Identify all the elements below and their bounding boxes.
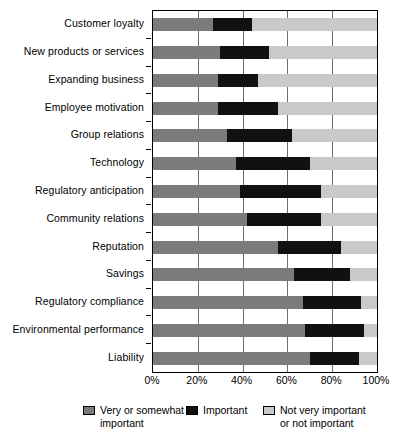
segment-important (310, 352, 359, 365)
y-axis-category-labels: Customer loyaltyNew products or services… (0, 8, 144, 378)
segment-not-very-important (269, 46, 377, 59)
segment-not-very-important (258, 74, 377, 87)
y-axis-tick (146, 93, 151, 94)
y-axis-tick (146, 315, 151, 316)
x-axis-tick-label: 80% (321, 374, 342, 386)
segment-very-or-somewhat-important (153, 185, 240, 198)
y-axis-label: Community relations (0, 213, 144, 224)
x-axis-tick-label: 20% (186, 374, 207, 386)
legend-item: Very or somewhat important (83, 404, 184, 429)
legend-item: Important (186, 404, 247, 417)
segment-important (236, 157, 310, 170)
segment-not-very-important (364, 324, 377, 337)
segment-not-very-important (350, 268, 377, 281)
bar-row (153, 324, 377, 337)
y-axis-label: Regulatory compliance (0, 296, 144, 307)
segment-not-very-important (278, 102, 377, 115)
bar-row (153, 46, 377, 59)
segment-important (218, 102, 278, 115)
segment-not-very-important (292, 129, 377, 142)
segment-not-very-important (361, 296, 377, 309)
bar-row (153, 268, 377, 281)
y-axis-tick (146, 149, 151, 150)
segment-important (240, 185, 321, 198)
plot-area (152, 10, 378, 373)
x-axis-tick-label: 40% (231, 374, 252, 386)
bar-row (153, 296, 377, 309)
y-axis-tick (146, 232, 151, 233)
very-swatch (83, 406, 95, 415)
y-axis-label: Technology (0, 157, 144, 168)
y-axis-tick (146, 260, 151, 261)
segment-important (227, 129, 292, 142)
bar-row (153, 185, 377, 198)
segment-very-or-somewhat-important (153, 296, 303, 309)
y-axis-label: Savings (0, 268, 144, 279)
segment-very-or-somewhat-important (153, 241, 278, 254)
segment-important (303, 296, 361, 309)
y-axis-tick (146, 343, 151, 344)
x-axis-tick-label: 60% (276, 374, 297, 386)
y-axis-tick (146, 121, 151, 122)
bar-row (153, 213, 377, 226)
bar-row (153, 129, 377, 142)
segment-very-or-somewhat-important (153, 157, 236, 170)
segment-very-or-somewhat-important (153, 102, 218, 115)
bar-row (153, 352, 377, 365)
segment-important (247, 213, 321, 226)
segment-important (305, 324, 363, 337)
legend-label: Very or somewhat important (100, 404, 184, 429)
y-axis-label: Customer loyalty (0, 18, 144, 29)
segment-important (218, 74, 258, 87)
segment-not-very-important (341, 241, 377, 254)
segment-not-very-important (321, 213, 377, 226)
segment-important (213, 18, 251, 31)
stacked-bar-chart: Customer loyaltyNew products or services… (0, 0, 396, 444)
segment-important (278, 241, 341, 254)
segment-very-or-somewhat-important (153, 74, 218, 87)
legend-label: Important (203, 404, 247, 417)
y-axis-label: Environmental performance (0, 324, 144, 335)
y-axis-label: Expanding business (0, 74, 144, 85)
y-axis-tick (146, 66, 151, 67)
y-axis-label: Reputation (0, 241, 144, 252)
y-axis-tick (146, 38, 151, 39)
segment-very-or-somewhat-important (153, 18, 213, 31)
segment-very-or-somewhat-important (153, 213, 247, 226)
bar-row (153, 102, 377, 115)
bar-row (153, 74, 377, 87)
segment-not-very-important (252, 18, 377, 31)
legend-label: Not very important or not important (280, 404, 366, 429)
y-axis-label: Employee motivation (0, 102, 144, 113)
x-axis-tick-label: 0% (144, 374, 159, 386)
segment-not-very-important (359, 352, 377, 365)
legend-item: Not very important or not important (263, 404, 366, 429)
x-axis-tick-labels: 0%20%40%60%80%100% (0, 374, 396, 390)
y-axis-tick (146, 288, 151, 289)
segment-very-or-somewhat-important (153, 129, 227, 142)
segment-very-or-somewhat-important (153, 352, 310, 365)
y-axis-label: Group relations (0, 129, 144, 140)
segment-very-or-somewhat-important (153, 46, 220, 59)
bar-row (153, 241, 377, 254)
important-swatch (186, 406, 198, 415)
segment-very-or-somewhat-important (153, 324, 305, 337)
plot-inner (153, 11, 377, 372)
bar-row (153, 18, 377, 31)
y-axis-label: Regulatory anticipation (0, 185, 144, 196)
bar-row (153, 157, 377, 170)
y-axis-tick (146, 177, 151, 178)
chart-legend: Very or somewhat importantImportantNot v… (0, 404, 396, 444)
plot-wrapper: Customer loyaltyNew products or services… (0, 0, 396, 388)
y-axis-label: Liability (0, 352, 144, 363)
segment-important (220, 46, 269, 59)
y-axis-label: New products or services (0, 46, 144, 57)
not-important-swatch (263, 406, 275, 415)
segment-not-very-important (321, 185, 377, 198)
y-axis-tick (146, 204, 151, 205)
segment-very-or-somewhat-important (153, 268, 294, 281)
segment-important (294, 268, 350, 281)
segment-not-very-important (310, 157, 377, 170)
x-axis-tick-label: 100% (363, 374, 390, 386)
